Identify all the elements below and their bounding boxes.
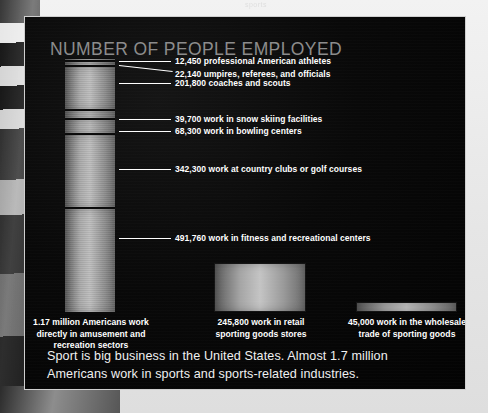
callout-fitness: 491,760 work in fitness and recreational… <box>175 233 371 243</box>
callout-bowling: 68,300 work in bowling centers <box>175 126 302 136</box>
callout-coaches: 201,800 coaches and scouts <box>175 78 291 88</box>
bar-caption-wholesale: 45,000 work in the wholesale trade of sp… <box>347 317 466 340</box>
bar-caption-retail: 245,800 work in retail sporting goods st… <box>207 317 315 340</box>
leader-line-fitness <box>119 238 171 239</box>
leader-line-bowling <box>119 131 171 132</box>
bar-segment-fitness-centers <box>65 208 115 313</box>
infographic-panel: NUMBER OF PEOPLE EMPLOYED 12,450 profess… <box>24 16 466 390</box>
bar-wholesale-sporting-goods <box>356 302 457 312</box>
bar-segment-snow-skiing <box>65 110 115 119</box>
leader-line-umpires <box>119 65 173 72</box>
leader-line-country-clubs <box>119 169 171 170</box>
bar-segment-bowling <box>65 119 115 134</box>
callout-country-clubs: 342,300 work at country clubs or golf co… <box>175 164 362 174</box>
callout-snow-skiing: 39,700 work in snow skiing facilities <box>175 114 322 124</box>
page-header-text: sports <box>196 1 316 11</box>
bar-segment-coaches <box>65 66 115 110</box>
bar-segment-country-clubs <box>65 134 115 208</box>
bar-caption-main: 1.17 million Americans work directly in … <box>29 317 153 352</box>
leader-line-coaches <box>119 83 171 84</box>
stacked-bar-chart <box>65 58 115 313</box>
bar-retail-sporting-goods <box>214 263 306 312</box>
callout-athletes: 12,450 professional American athletes <box>175 56 331 66</box>
summary-text: Sport is big business in the United Stat… <box>47 348 451 383</box>
leader-line-athletes <box>119 61 171 62</box>
background-photo-bottom <box>0 386 120 413</box>
leader-line-snow-skiing <box>119 119 171 120</box>
